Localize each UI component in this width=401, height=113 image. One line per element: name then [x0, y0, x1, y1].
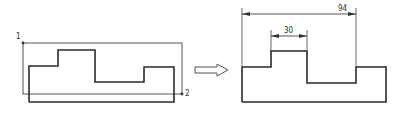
dimension-label-94: 94	[338, 4, 348, 13]
selection-window	[23, 43, 182, 94]
point-label-1: 1	[16, 32, 21, 41]
left-figure: 1 2	[16, 32, 190, 102]
dimension-94: 94	[242, 4, 356, 66]
corner-point-1	[22, 42, 25, 45]
dimension-label-30: 30	[284, 26, 294, 35]
drawing-canvas: 1 2 94 30	[0, 0, 401, 113]
point-label-2: 2	[185, 89, 190, 98]
hollow-right-arrow-icon	[195, 64, 228, 76]
dimension-30: 30	[271, 26, 307, 50]
corner-point-2	[181, 93, 184, 96]
right-figure: 94 30	[242, 4, 386, 102]
right-profile	[242, 51, 386, 102]
